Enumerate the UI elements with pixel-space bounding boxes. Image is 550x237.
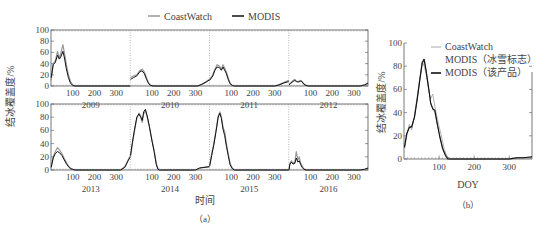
series-line-modis bbox=[289, 158, 368, 170]
year-label: 2010 bbox=[161, 100, 180, 110]
legend-label: CoastWatch bbox=[164, 11, 212, 22]
y-tick-label: 20 bbox=[40, 70, 50, 80]
x-tick-label: 300 bbox=[347, 172, 361, 182]
x-tick-label: 200 bbox=[88, 172, 102, 182]
x-tick-label: 300 bbox=[268, 88, 282, 98]
y-tick-label: 40 bbox=[393, 108, 403, 118]
y-tick-label: 100 bbox=[36, 25, 50, 35]
panel-a-row-bottom: 0204060801001002003002013100200300201410… bbox=[36, 99, 369, 194]
series-line-modis bbox=[131, 109, 210, 170]
x-tick-label: 200 bbox=[88, 88, 102, 98]
figure: CoastWatchMODIS 020406080100100200300200… bbox=[0, 0, 550, 237]
panel-b-legend: CoastWatchMODIS（冰雪标志）MODIS（该产品） bbox=[431, 41, 537, 78]
panel-b-y-axis-label: 结冰覆盖度/% bbox=[375, 71, 387, 132]
series-line-coastwatch bbox=[210, 65, 289, 86]
panel-a-legend: CoastWatchMODIS bbox=[148, 11, 280, 22]
y-tick-label: 20 bbox=[40, 152, 50, 162]
series-line-modis bbox=[210, 113, 289, 170]
x-tick-label: 300 bbox=[189, 88, 203, 98]
panel-a-row-top: 0204060801001002003002009100200300201010… bbox=[36, 25, 369, 110]
x-tick-label: 100 bbox=[66, 88, 80, 98]
y-tick-label: 0 bbox=[398, 154, 403, 164]
x-tick-label: 300 bbox=[109, 172, 123, 182]
y-tick-label: 100 bbox=[36, 99, 50, 109]
x-tick-label: 100 bbox=[224, 172, 238, 182]
x-tick-label: 200 bbox=[167, 88, 181, 98]
series-line-modis bbox=[131, 71, 210, 86]
series-line-modis bbox=[51, 51, 130, 86]
x-tick-label: 200 bbox=[246, 172, 260, 182]
legend-label: MODIS（冰雪标志） bbox=[445, 53, 537, 65]
y-tick-label: 80 bbox=[393, 61, 403, 71]
x-tick-label: 100 bbox=[145, 88, 159, 98]
legend-label: MODIS（该产品） bbox=[445, 66, 527, 78]
y-tick-label: 60 bbox=[40, 125, 50, 135]
x-tick-label: 100 bbox=[304, 172, 318, 182]
legend-label: CoastWatch bbox=[445, 41, 493, 52]
y-tick-label: 80 bbox=[40, 112, 50, 122]
panel-a-y-axis-label: 结冰覆盖度/% bbox=[4, 65, 16, 126]
y-tick-label: 0 bbox=[45, 165, 50, 175]
panel-b-label: （b） bbox=[457, 200, 480, 210]
x-tick-label: 300 bbox=[347, 88, 361, 98]
y-tick-label: 40 bbox=[40, 139, 50, 149]
series-line-modis bbox=[289, 80, 368, 86]
legend-label: MODIS bbox=[248, 11, 280, 22]
series-line-modis bbox=[210, 67, 289, 86]
y-tick-label: 100 bbox=[389, 38, 403, 48]
y-tick-label: 0 bbox=[45, 81, 50, 91]
panel-a-label: （a） bbox=[194, 214, 216, 224]
x-tick-label: 200 bbox=[246, 88, 260, 98]
x-tick-label: 300 bbox=[268, 172, 282, 182]
year-label: 2013 bbox=[82, 184, 101, 194]
y-tick-label: 20 bbox=[393, 131, 403, 141]
series-line-coastwatch bbox=[51, 45, 130, 86]
x-tick-label: 100 bbox=[145, 172, 159, 182]
x-tick-label: 100 bbox=[66, 172, 80, 182]
year-label: 2009 bbox=[82, 100, 101, 110]
x-tick-label: 100 bbox=[224, 88, 238, 98]
y-tick-label: 60 bbox=[40, 47, 50, 57]
x-tick-label: 100 bbox=[432, 162, 446, 172]
y-tick-label: 60 bbox=[393, 84, 403, 94]
series-line-modis bbox=[51, 152, 130, 171]
series-line-coastwatch bbox=[51, 148, 130, 170]
x-tick-label: 300 bbox=[189, 172, 203, 182]
y-tick-label: 80 bbox=[40, 36, 50, 46]
x-tick-label: 300 bbox=[502, 162, 516, 172]
panel-b-x-axis-label: DOY bbox=[457, 179, 479, 190]
panel-a-x-axis-label: 时间 bbox=[195, 194, 215, 206]
x-tick-label: 200 bbox=[325, 88, 339, 98]
panel-b-chart: 020406080100100200300 CoastWatchMODIS（冰雪… bbox=[375, 38, 537, 210]
x-tick-label: 200 bbox=[467, 162, 481, 172]
year-label: 2012 bbox=[319, 100, 337, 110]
year-label: 2015 bbox=[240, 184, 259, 194]
x-tick-label: 300 bbox=[109, 88, 123, 98]
panel-a-chart: CoastWatchMODIS 020406080100100200300200… bbox=[4, 11, 368, 224]
y-tick-label: 40 bbox=[40, 59, 50, 69]
x-tick-label: 200 bbox=[325, 172, 339, 182]
x-tick-label: 100 bbox=[304, 88, 318, 98]
x-tick-label: 200 bbox=[167, 172, 181, 182]
series-line-coastwatch bbox=[289, 79, 368, 86]
series-line-coastwatch bbox=[289, 152, 368, 171]
year-label: 2014 bbox=[161, 184, 180, 194]
year-label: 2016 bbox=[319, 184, 338, 194]
